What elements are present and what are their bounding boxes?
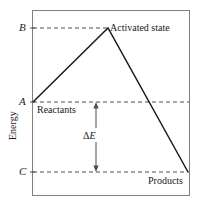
energy-profile-diagram: B A C Activated state Reactants Products… [0,0,200,210]
level-label-a: A [19,96,26,107]
y-axis-title: Energy [8,111,18,140]
delta-variable: E [89,130,95,141]
activated-state-label: Activated state [110,23,170,33]
reactants-label: Reactants [37,105,76,115]
energy-profile-curve [33,28,188,172]
level-label-b: B [19,22,26,33]
plot-frame [33,11,190,196]
products-label: Products [148,176,183,186]
delta-e-label: ΔE [83,131,96,141]
level-label-c: C [19,166,26,177]
